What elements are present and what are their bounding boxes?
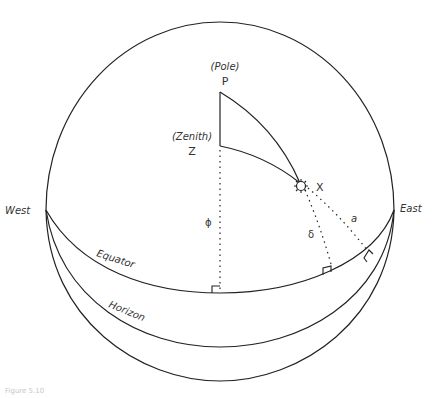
altitude-label: a (351, 213, 357, 224)
zenith-note-label: (Zenith) (172, 131, 212, 142)
star-icon (294, 179, 308, 193)
horizon-arc (46, 210, 394, 347)
pole-star-arc (220, 92, 300, 183)
declination-dotted-line (305, 190, 331, 264)
altitude-dotted-line (308, 188, 367, 250)
right-angle-marker (212, 286, 220, 293)
east-label: East (400, 203, 423, 214)
latitude-label: ϕ (205, 217, 212, 228)
figure-caption: Figure 5.10 (5, 387, 44, 395)
equator-label: Equator (95, 247, 137, 270)
celestial-sphere-diagram: (Pole) P (Zenith) Z X West East ϕ δ a Eq… (0, 0, 438, 398)
pole-note-label: (Pole) (211, 61, 240, 72)
right-angle-marker (364, 250, 373, 262)
star-label: X (316, 181, 324, 194)
declination-label: δ (308, 229, 314, 240)
west-label: West (5, 205, 31, 216)
pole-label: P (222, 75, 229, 88)
sphere-lower-outline (46, 210, 394, 381)
zenith-label: Z (188, 145, 196, 158)
horizon-label: Horizon (107, 299, 147, 324)
zenith-star-arc (220, 146, 300, 183)
